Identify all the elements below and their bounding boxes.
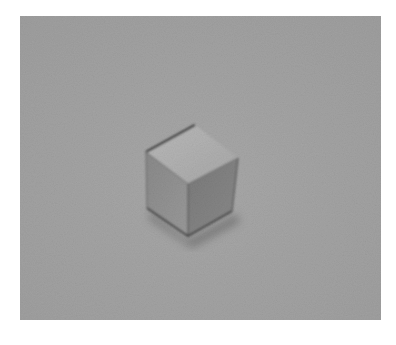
photo-cube [20, 16, 381, 320]
